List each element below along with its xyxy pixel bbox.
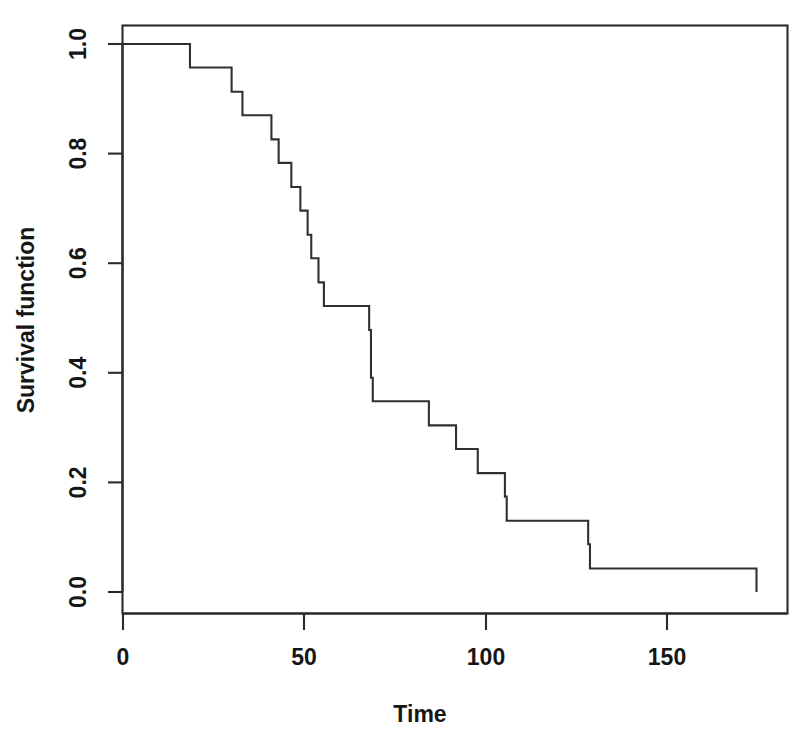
y-tick-label-0.6: 0.6 — [65, 247, 91, 279]
survival-plot-figure: 1.0 0.8 0.6 0.4 0.2 0.0 Survival functio… — [0, 0, 804, 753]
plot-frame — [123, 26, 788, 614]
y-tick-labels: 1.0 0.8 0.6 0.4 0.2 0.0 — [65, 28, 91, 608]
survival-step-curve — [123, 44, 757, 592]
x-tick-label-0: 0 — [117, 644, 130, 670]
y-tick-label-0.4: 0.4 — [65, 357, 91, 389]
y-tick-label-0.0: 0.0 — [65, 576, 91, 608]
x-tick-label-100: 100 — [467, 644, 505, 670]
x-tick-label-150: 150 — [648, 644, 686, 670]
y-tick-label-1.0: 1.0 — [65, 28, 91, 60]
x-axis-title: Time — [393, 701, 446, 727]
y-axis — [108, 44, 123, 592]
x-tick-labels: 0 50 100 150 — [117, 644, 687, 670]
y-tick-label-0.2: 0.2 — [65, 466, 91, 498]
x-axis — [123, 614, 787, 631]
plot-canvas: 1.0 0.8 0.6 0.4 0.2 0.0 Survival functio… — [0, 0, 804, 753]
y-tick-label-0.8: 0.8 — [65, 137, 91, 169]
y-axis-title: Survival function — [13, 227, 39, 414]
x-tick-label-50: 50 — [291, 644, 317, 670]
